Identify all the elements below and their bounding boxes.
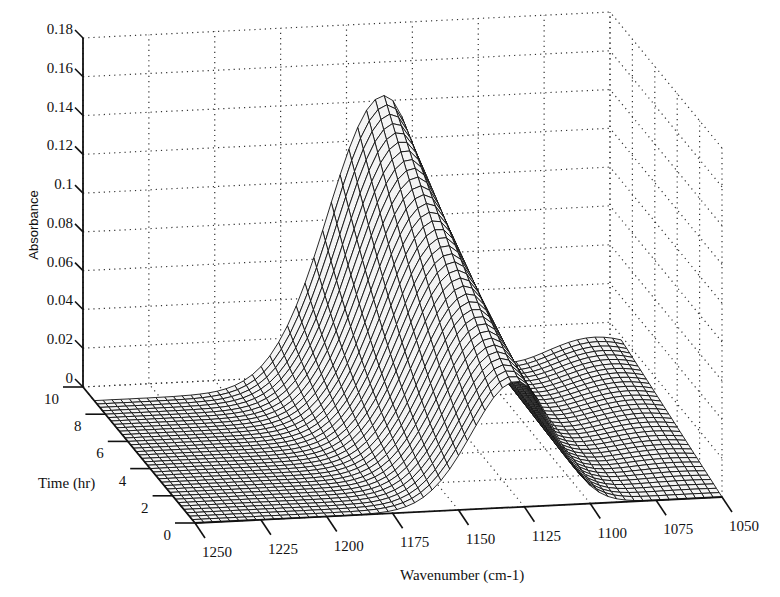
z-tick-label: 0.18: [47, 21, 73, 37]
wavenumber-tick: [590, 504, 600, 519]
time-tick-label: 4: [119, 473, 127, 489]
time-tick-label: 0: [164, 527, 172, 543]
grid-line: [610, 206, 722, 342]
grid-line: [610, 12, 722, 148]
z-tick-label: 0.1: [54, 176, 73, 192]
wavenumber-tick: [327, 517, 337, 532]
wavenumber-tick-label: 1050: [729, 518, 759, 534]
z-axis-title: Absorbance: [26, 190, 41, 259]
z-tick: [75, 185, 83, 193]
z-tick: [75, 224, 83, 232]
time-tick-label: 6: [96, 445, 104, 461]
wavenumber-tick-label: 1100: [598, 525, 627, 541]
wavenumber-tick-label: 1150: [466, 531, 495, 547]
time-tick-label: 10: [44, 391, 59, 407]
wavenumber-tick-label: 1125: [532, 528, 561, 544]
wavenumber-tick: [459, 510, 469, 525]
z-tick: [75, 340, 83, 348]
wavenumber-tick-label: 1200: [334, 538, 364, 554]
z-tick-label: 0.14: [47, 99, 74, 115]
wavenumber-tick: [656, 500, 666, 515]
z-tick-label: 0.12: [47, 137, 73, 153]
z-tick: [75, 69, 83, 77]
z-tick: [75, 108, 83, 116]
wavenumber-tick: [524, 507, 534, 522]
time-tick-label: 2: [141, 500, 149, 516]
y-axis-title: Time (hr): [38, 475, 95, 492]
surface-chart: 00.020.040.060.080.10.120.140.160.180246…: [0, 0, 780, 597]
grid-line: [610, 90, 722, 226]
x-axis-title: Wavenumber (cm-1): [400, 567, 524, 584]
wavenumber-tick-label: 1250: [202, 544, 232, 560]
z-tick-label: 0.02: [47, 331, 73, 347]
z-tick-label: 0.16: [47, 60, 74, 76]
grid-line: [610, 128, 722, 264]
z-tick: [75, 301, 83, 309]
wavenumber-tick: [261, 520, 271, 535]
wavenumber-tick-label: 1175: [400, 534, 429, 550]
z-tick: [75, 263, 83, 271]
grid-line: [83, 128, 610, 154]
z-tick-label: 0.06: [47, 254, 74, 270]
z-tick-label: 0: [66, 370, 74, 386]
surface-mesh: [94, 96, 722, 524]
grid-line: [83, 51, 610, 77]
z-tick: [75, 30, 83, 38]
wavenumber-tick: [722, 497, 732, 512]
wavenumber-tick: [195, 523, 205, 538]
wavenumber-tick: [393, 513, 403, 528]
z-tick-label: 0.08: [47, 215, 73, 231]
wavenumber-tick-label: 1225: [268, 541, 298, 557]
z-tick-label: 0.04: [47, 292, 74, 308]
grid-line: [610, 51, 722, 187]
z-tick: [75, 379, 83, 387]
grid-line: [610, 167, 722, 303]
z-tick: [75, 146, 83, 154]
time-tick-label: 8: [74, 418, 82, 434]
wavenumber-tick-label: 1075: [663, 521, 693, 537]
